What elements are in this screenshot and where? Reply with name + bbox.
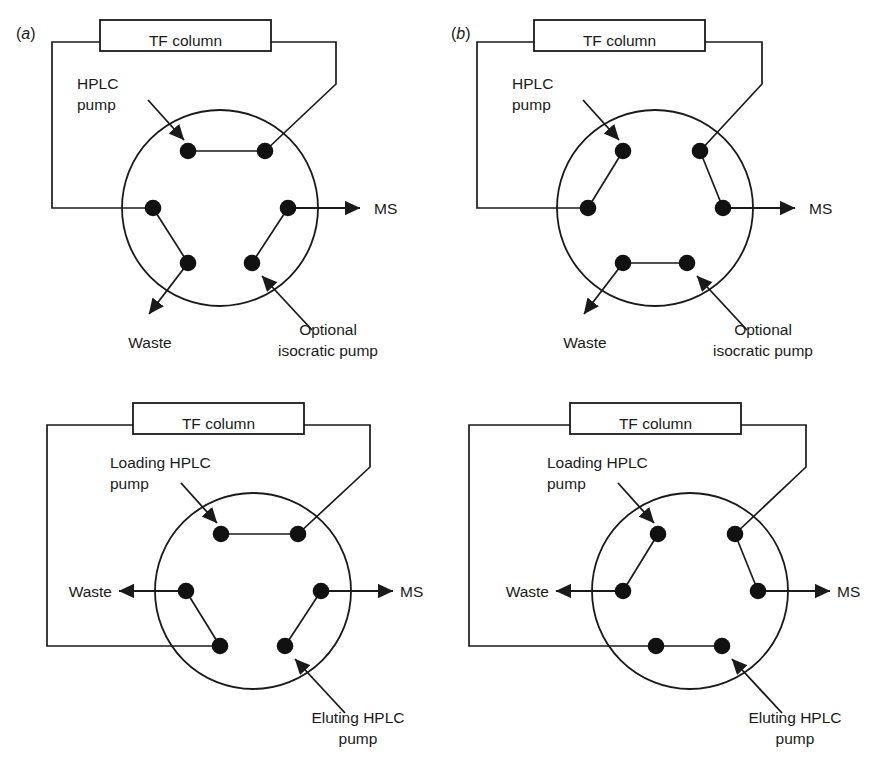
tf-column-label-d: TF column — [619, 415, 692, 432]
valve-port-b-bottom-left — [615, 255, 632, 272]
waste-label-a: Waste — [128, 334, 171, 351]
valve-port-b-right — [715, 200, 732, 217]
hplc-pump-label-b-line2: pump — [512, 96, 551, 113]
valve-port-d-right — [750, 583, 767, 600]
valve-port-b-left — [580, 200, 597, 217]
valve-port-d-top-right — [727, 526, 744, 543]
ms-label-d: MS — [837, 583, 860, 600]
valve-port-c-top-left — [213, 526, 230, 543]
valve-port-a-bottom-left — [180, 255, 197, 272]
waste-outlet-line-a — [149, 263, 188, 314]
valve-port-a-top-left — [180, 143, 197, 160]
valve-port-d-top-left — [650, 526, 667, 543]
ms-label-b: MS — [809, 200, 832, 217]
eluting-pump-label-d-line2: pump — [776, 730, 815, 747]
rotor-channel-b-2 — [700, 151, 723, 208]
rotor-channel-b-1 — [588, 151, 623, 208]
eluting-inlet-line-d — [732, 659, 782, 713]
waste-outlet-line-b — [584, 263, 623, 314]
eluting-pump-label-c-line1: Eluting HPLC — [311, 709, 404, 726]
eluting-inlet-line-c — [295, 659, 345, 713]
isocratic-label-a-line1: Optional — [299, 321, 357, 338]
tf-column-label-c: TF column — [182, 415, 255, 432]
rotor-channel-d-1 — [623, 534, 658, 591]
figure-canvas: (a) TF column HPLC pump MS Waste Optiona… — [0, 0, 876, 769]
valve-port-a-right — [280, 200, 297, 217]
panel-c — [47, 403, 393, 713]
diagram-svg: (a) TF column HPLC pump MS Waste Optiona… — [0, 0, 876, 769]
loop-line-left-a — [52, 42, 153, 208]
rotor-channel-c-2 — [186, 591, 220, 646]
valve-port-c-bottom-right — [277, 638, 294, 655]
valve-port-d-bottom-left — [648, 638, 665, 655]
eluting-pump-label-c-line2: pump — [339, 730, 378, 747]
isocratic-label-b-line2: isocratic pump — [713, 342, 813, 359]
panel-tag-b: (b) — [451, 25, 471, 42]
ms-label-a: MS — [374, 200, 397, 217]
hplc-pump-label-a-line2: pump — [77, 96, 116, 113]
rotor-channel-a-3 — [252, 208, 288, 263]
valve-port-a-top-right — [257, 143, 274, 160]
valve-port-a-left — [145, 200, 162, 217]
panel-d — [469, 403, 830, 713]
valve-port-c-top-right — [290, 526, 307, 543]
loading-pump-label-c-line2: pump — [110, 475, 149, 492]
loading-pump-label-d-line2: pump — [547, 475, 586, 492]
loop-line-right-a — [265, 42, 336, 151]
hplc-pump-label-b-line1: HPLC — [512, 75, 553, 92]
loading-pump-label-c-line1: Loading HPLC — [110, 454, 211, 471]
waste-label-c: Waste — [69, 583, 112, 600]
waste-label-b: Waste — [563, 334, 606, 351]
panel-a — [52, 20, 360, 330]
valve-port-b-top-left — [615, 143, 632, 160]
waste-label-d: Waste — [506, 583, 549, 600]
valve-port-b-top-right — [692, 143, 709, 160]
valve-port-d-left — [615, 583, 632, 600]
loop-line-right-b — [700, 42, 762, 151]
valve-port-d-bottom-right — [714, 638, 731, 655]
loop-line-right-c — [298, 425, 370, 534]
panel-b — [477, 20, 795, 330]
rotor-channel-a-2 — [153, 208, 188, 263]
rotor-channel-d-2 — [735, 534, 758, 591]
ms-label-c: MS — [400, 583, 423, 600]
tf-column-label-b: TF column — [583, 32, 656, 49]
loop-line-left-b — [477, 42, 588, 208]
valve-port-a-bottom-right — [244, 255, 261, 272]
loop-line-right-d — [735, 425, 806, 534]
loading-pump-label-d-line1: Loading HPLC — [547, 454, 648, 471]
valve-port-c-bottom-left — [212, 638, 229, 655]
eluting-pump-label-d-line1: Eluting HPLC — [748, 709, 841, 726]
panel-tag-a: (a) — [16, 25, 36, 42]
valve-port-c-right — [313, 583, 330, 600]
isocratic-label-b-line1: Optional — [734, 321, 792, 338]
isocratic-label-a-line2: isocratic pump — [278, 342, 378, 359]
valve-port-b-bottom-right — [679, 255, 696, 272]
valve-port-c-left — [178, 583, 195, 600]
tf-column-label-a: TF column — [149, 32, 222, 49]
rotor-channel-c-3 — [285, 591, 321, 646]
hplc-pump-label-a-line1: HPLC — [77, 75, 118, 92]
